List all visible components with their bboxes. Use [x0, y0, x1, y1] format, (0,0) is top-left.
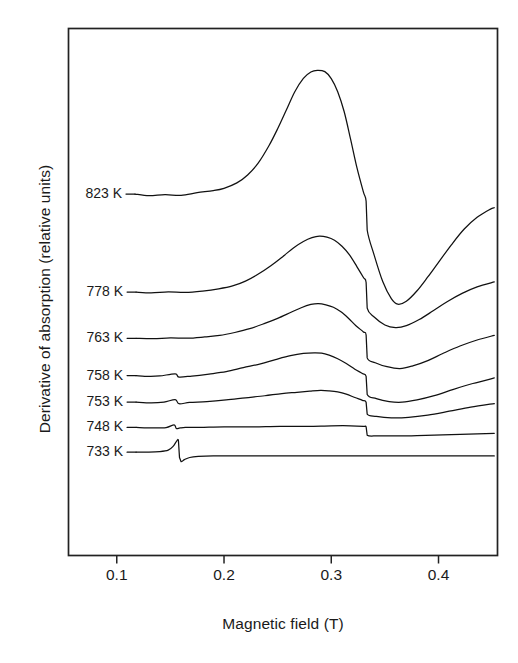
spectrum-curve [136, 304, 494, 369]
x-tick-label: 0.3 [301, 566, 361, 584]
x-tick-label: 0.1 [87, 566, 147, 584]
y-axis-label: Derivative of absorption (relative units… [36, 69, 54, 529]
series-temperature-label: 763 K [53, 329, 123, 345]
curve-group [126, 70, 494, 461]
series-temperature-label: 753 K [53, 393, 123, 409]
axes-group [69, 29, 498, 564]
series-temperature-label: 733 K [53, 443, 123, 459]
spectrum-curve [136, 353, 494, 403]
series-temperature-label: 823 K [52, 185, 122, 201]
series-temperature-label: 778 K [53, 283, 123, 299]
series-temperature-label: 748 K [53, 418, 123, 434]
x-tick-label: 0.4 [409, 566, 469, 584]
spectrum-curve [136, 236, 494, 327]
spectrum-curve [136, 390, 494, 417]
spectrum-curve [136, 425, 494, 436]
spectrum-curve [136, 439, 494, 461]
x-axis-label: Magnetic field (T) [68, 615, 498, 633]
x-tick-label: 0.2 [194, 566, 254, 584]
figure-panel: Derivative of absorption (relative units… [0, 0, 518, 663]
series-temperature-label: 758 K [53, 367, 123, 383]
spectrum-curve [135, 70, 494, 304]
